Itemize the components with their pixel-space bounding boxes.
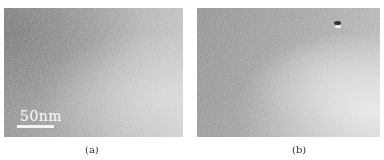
defect-spot bbox=[333, 21, 342, 28]
grain-texture bbox=[197, 8, 380, 137]
micrograph-panel-b bbox=[197, 8, 380, 137]
defect-bright-part bbox=[335, 25, 341, 28]
panel-caption-a: (a) bbox=[85, 144, 99, 155]
scale-bar bbox=[17, 125, 54, 128]
panel-caption-b: (b) bbox=[292, 144, 306, 155]
micrograph-panel-a: 50nm bbox=[4, 8, 183, 137]
scale-bar-label: 50nm bbox=[20, 108, 62, 124]
